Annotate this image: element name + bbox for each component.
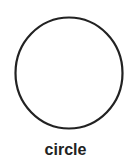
circle-shape (14, 16, 124, 130)
shape-label: circle (0, 141, 131, 159)
